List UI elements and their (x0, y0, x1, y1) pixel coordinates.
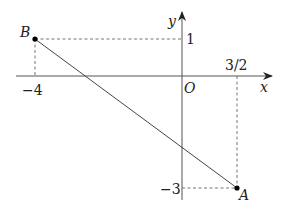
x-axis-label: x (260, 79, 268, 95)
coordinate-diagram: B A y x O 1 3/2 −4 −3 (0, 0, 281, 214)
point-a-label: A (237, 187, 249, 203)
point-b-label: B (19, 24, 30, 40)
tick-label-x-3-2: 3/2 (225, 57, 248, 73)
tick-label-y-neg3: −3 (160, 181, 181, 197)
tick-label-y-1: 1 (186, 31, 195, 47)
tick-label-x-neg4: −4 (22, 82, 43, 98)
y-axis-label: y (167, 13, 177, 29)
point-b (32, 36, 37, 41)
origin-label: O (184, 80, 196, 96)
segment-ab (35, 39, 237, 188)
